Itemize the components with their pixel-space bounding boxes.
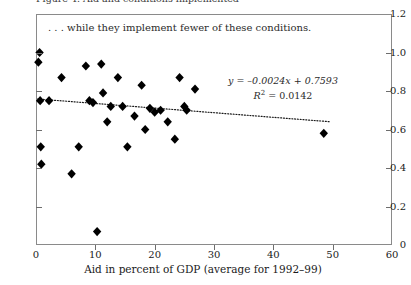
x-tick-mark (333, 245, 334, 250)
x-tick-label: 40 (253, 249, 293, 260)
x-axis-label: Aid in percent of GDP (average for 1992–… (0, 263, 406, 275)
y-tick-mark (36, 53, 42, 54)
trendline-equation: y = –0.0024x + 0.7593 R2 = 0.0142 (228, 74, 338, 102)
y-tick-label: 0.8 (380, 86, 406, 96)
r-symbol: R (254, 90, 261, 101)
y-tick-mark (36, 207, 42, 208)
x-tick-label: 0 (16, 249, 56, 260)
plot-area (36, 14, 392, 245)
x-tick-label: 30 (194, 249, 234, 260)
x-tick-label: 20 (135, 249, 175, 260)
y-tick-label: 0.4 (380, 163, 406, 173)
y-tick-mark-right (386, 91, 392, 92)
x-tick-mark (95, 245, 96, 250)
x-tick-mark (155, 245, 156, 250)
y-tick-mark-right (386, 168, 392, 169)
y-tick-mark (36, 130, 42, 131)
y-tick-label: 1.0 (380, 48, 406, 58)
y-tick-label: 0.2 (380, 202, 406, 212)
y-axis (0, 0, 32, 285)
x-tick-label: 50 (313, 249, 353, 260)
y-tick-mark-right (386, 130, 392, 131)
clipped-figure-caption: Figure 4. Aid and conditions implemented (36, 0, 376, 5)
y-tick-mark (36, 91, 42, 92)
equation-line: y = –0.0024x + 0.7593 (228, 75, 338, 86)
y-tick-label: 1.2 (380, 9, 406, 19)
x-tick-mark (214, 245, 215, 250)
r-squared-value: = 0.0142 (265, 90, 312, 101)
y-tick-mark-right (386, 53, 392, 54)
x-tick-label: 10 (75, 249, 115, 260)
y-tick-mark-right (386, 207, 392, 208)
y-tick-label: 0.6 (380, 125, 406, 135)
y-tick-mark (36, 168, 42, 169)
x-tick-mark (273, 245, 274, 250)
r-squared-line: R2 = 0.0142 (228, 87, 338, 102)
x-tick-label: 60 (372, 249, 411, 260)
chart-annotation-note: . . . while they implement fewer of thes… (48, 22, 311, 33)
